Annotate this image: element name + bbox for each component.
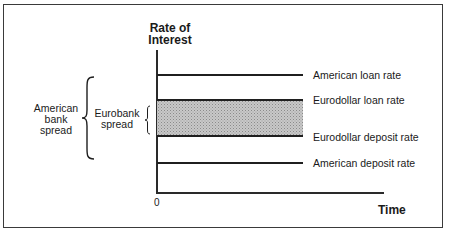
eurobank-spread-band [157, 100, 303, 136]
eurodollar-loan-rate-label: Eurodollar loan rate [313, 94, 405, 106]
origin-label: 0 [154, 197, 160, 208]
y-axis-label: Rate of Interest [130, 22, 210, 46]
american-loan-rate-label: American loan rate [313, 69, 401, 81]
x-axis [156, 192, 384, 194]
eurodollar-loan-rate-line [157, 99, 303, 101]
eurobank-spread-brace-icon [144, 105, 152, 135]
eurodollar-deposit-rate-label: Eurodollar deposit rate [313, 131, 419, 143]
american-bank-spread-line3: spread [30, 125, 82, 136]
eurobank-spread-label: Eurobank spread [94, 108, 140, 130]
eurodollar-deposit-rate-line [157, 135, 303, 137]
american-bank-spread-label: American bank spread [30, 103, 82, 136]
american-deposit-rate-label: American deposit rate [313, 157, 415, 169]
american-deposit-rate-line [157, 162, 303, 164]
american-loan-rate-line [157, 74, 303, 76]
y-axis-label-line2: Interest [130, 34, 210, 46]
x-axis-label: Time [378, 203, 406, 217]
eurobank-spread-line2: spread [94, 119, 140, 130]
